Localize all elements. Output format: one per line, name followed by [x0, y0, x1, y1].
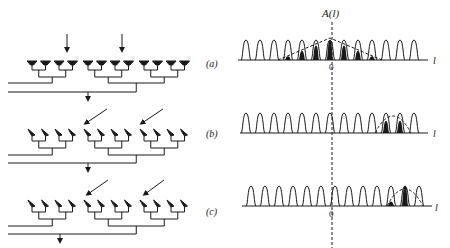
phased-array-diagrams — [8, 34, 190, 241]
x-axis-label-c: l — [435, 202, 438, 213]
pulse-train-c — [242, 186, 432, 206]
antenna-element-icon — [68, 61, 78, 65]
antenna-element-icon — [181, 200, 188, 207]
incident-wave-arrow-icon — [145, 180, 164, 194]
antenna-element-icon — [139, 61, 149, 65]
antenna-element-icon — [83, 61, 93, 65]
antenna-element-icon — [98, 129, 105, 136]
pulse-train-a — [238, 38, 428, 60]
incident-wave-arrow-icon — [142, 109, 163, 123]
origin-label-c: 0 — [329, 209, 334, 219]
antenna-element-icon — [167, 129, 174, 136]
antenna-element-icon — [110, 61, 120, 65]
antenna-element-icon — [111, 129, 118, 136]
array-factor-envelope — [375, 116, 411, 133]
antenna-element-icon — [166, 61, 176, 65]
antenna-element-icon — [140, 200, 147, 207]
panel-label-b: (b) — [206, 128, 218, 140]
antenna-element-icon — [27, 61, 37, 65]
antenna-element-icon — [125, 129, 132, 136]
antenna-element-icon — [181, 129, 188, 136]
pulse-train-plots — [238, 38, 432, 206]
panel-label-a: (a) — [206, 58, 218, 70]
panel-label-c: (c) — [206, 206, 218, 218]
array-row-a — [8, 34, 190, 99]
incident-wave-arrow-icon — [86, 109, 107, 123]
pulse-train-b — [240, 113, 428, 133]
antenna-array-diagram: (a) (b) (c) A(l) 0 0 l l l — [0, 0, 450, 248]
antenna-element-icon — [167, 200, 174, 207]
antenna-element-icon — [41, 61, 51, 65]
antenna-element-icon — [42, 129, 49, 136]
origin-label-a: 0 — [329, 62, 334, 72]
y-axis-label: A(l) — [321, 7, 339, 20]
antenna-element-icon — [55, 200, 62, 207]
antenna-element-icon — [28, 129, 35, 136]
antenna-element-icon — [154, 129, 161, 136]
x-axis-label-a: l — [433, 55, 436, 66]
antenna-element-icon — [84, 200, 91, 207]
x-axis-label-b: l — [433, 128, 436, 139]
antenna-element-icon — [69, 129, 76, 136]
antenna-element-icon — [54, 61, 64, 65]
antenna-element-icon — [153, 61, 163, 65]
antenna-element-icon — [124, 61, 134, 65]
antenna-element-icon — [111, 200, 118, 207]
antenna-element-icon — [69, 200, 76, 207]
antenna-element-icon — [98, 200, 105, 207]
antenna-element-icon — [154, 200, 161, 207]
antenna-element-icon — [42, 200, 49, 207]
incident-wave-arrow-icon — [88, 180, 108, 194]
antenna-element-icon — [125, 200, 132, 207]
antenna-element-icon — [180, 61, 190, 65]
antenna-element-icon — [140, 129, 147, 136]
antenna-element-icon — [28, 200, 35, 207]
array-row-c — [8, 180, 188, 241]
antenna-element-icon — [84, 129, 91, 136]
antenna-element-icon — [55, 129, 62, 136]
array-row-b — [8, 109, 188, 170]
antenna-element-icon — [97, 61, 107, 65]
